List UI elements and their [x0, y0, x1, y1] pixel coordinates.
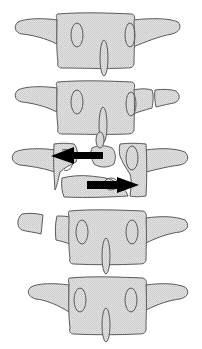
vertebra-1 — [15, 13, 180, 76]
right-transverse-process — [146, 149, 188, 172]
spinous-process — [96, 132, 104, 148]
vertebra-4 — [18, 210, 188, 274]
spinous-process — [102, 238, 110, 274]
spinous-process — [102, 308, 110, 342]
spinous-process — [100, 40, 108, 76]
vertebral-body — [56, 13, 134, 69]
left-transverse-process — [28, 284, 69, 312]
left-transverse-process — [12, 149, 55, 172]
right-transverse-process — [146, 217, 188, 243]
vertebra-3 — [12, 132, 187, 197]
right-transverse-process-fragment-outer — [155, 89, 180, 107]
spine-diagram — [0, 0, 202, 349]
left-transverse-process — [15, 87, 57, 112]
vertebral-body — [56, 81, 134, 135]
left-transverse-process — [15, 19, 57, 44]
right-transverse-process — [133, 19, 180, 47]
vertebra-5 — [28, 277, 187, 342]
left-transverse-process-fragment — [18, 213, 43, 234]
right-transverse-process — [146, 284, 188, 310]
